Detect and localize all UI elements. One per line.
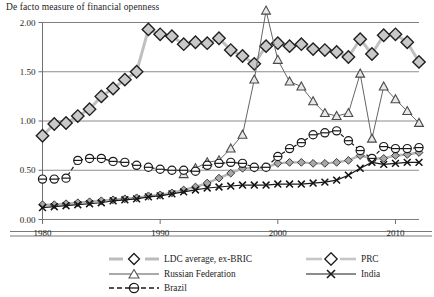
svg-text:1.50: 1.50 — [20, 67, 36, 77]
svg-text:2000: 2000 — [269, 228, 288, 238]
legend-column-right: PRC India — [305, 252, 380, 281]
legend-swatch-brazil — [108, 281, 160, 295]
legend-item-prc[interactable]: PRC — [305, 252, 380, 267]
legend-item-ldc[interactable]: LDC average, ex-BRIC — [108, 252, 252, 267]
legend-label-prc: PRC — [357, 254, 379, 264]
legend-label-russia: Russian Federation — [160, 269, 236, 279]
legend-item-brazil[interactable]: Brazil — [108, 281, 252, 296]
svg-text:2.00: 2.00 — [20, 18, 36, 28]
legend-label-brazil: Brazil — [160, 283, 187, 293]
series-ldc-average-ex-bric — [39, 149, 423, 209]
series-prc — [36, 23, 425, 142]
svg-text:2010: 2010 — [386, 228, 405, 238]
data-series-layer — [36, 6, 425, 211]
svg-text:1980: 1980 — [34, 228, 53, 238]
plot-area: 0.000.501.001.502.00 1980199020002010 — [0, 0, 434, 250]
legend-column-left: LDC average, ex-BRIC Russian Federation — [108, 252, 252, 296]
legend-swatch-russia — [108, 267, 160, 281]
legend-item-russia[interactable]: Russian Federation — [108, 267, 252, 282]
legend-swatch-prc — [305, 252, 357, 266]
y-axis-labels: 0.000.501.001.502.00 — [20, 18, 36, 225]
chart-legend: LDC average, ex-BRIC Russian Federation — [108, 252, 434, 297]
legend-label-ldc: LDC average, ex-BRIC — [160, 254, 252, 264]
legend-label-india: India — [357, 269, 380, 279]
svg-text:0.50: 0.50 — [20, 165, 36, 175]
svg-text:1.00: 1.00 — [20, 116, 36, 126]
legend-swatch-india — [305, 267, 357, 281]
legend-swatch-ldc — [108, 252, 160, 266]
x-axis-ticks — [43, 220, 396, 225]
legend-item-india[interactable]: India — [305, 267, 380, 282]
svg-text:0.00: 0.00 — [20, 215, 36, 225]
chart-figure: De facto measure of financial openness 0… — [0, 0, 434, 297]
svg-text:1990: 1990 — [151, 228, 170, 238]
y-axis-ticks — [39, 23, 43, 220]
